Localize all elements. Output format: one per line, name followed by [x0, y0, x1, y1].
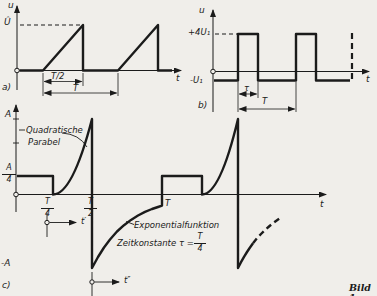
c-tick-period-label: T: [165, 199, 170, 208]
a-peak-label: Û: [4, 18, 11, 27]
c-aux1-origin-marker: [45, 220, 49, 224]
a-origin-marker: [15, 68, 20, 73]
c-origin-marker: [14, 192, 19, 197]
c-tick-quarter-num: T: [41, 198, 54, 208]
c-parabola-note-line1: Quadratische: [26, 126, 83, 135]
c-tick-half-fraction: T 2: [84, 198, 97, 218]
b-dim-pulse-label: τ: [244, 84, 249, 93]
c-parabola-note-leader: [62, 133, 87, 147]
panel-a: [15, 6, 181, 96]
figure-canvas: [0, 0, 377, 296]
c-parabola-note-line2: Parabel: [28, 138, 60, 147]
c-aux1-label: t′: [81, 217, 86, 226]
b-pulse-waveform: [214, 34, 350, 81]
c-aux2-origin-marker: [90, 280, 94, 284]
a-dim-period-label: T: [73, 84, 78, 93]
c-tick-half-num: T: [84, 198, 97, 208]
figure-bild-1: u Û T/2 T a) t u +4U₁ -U₁ τ T b) t A A 4…: [0, 0, 377, 296]
a-y-axis-label: u: [8, 1, 14, 10]
c-panel-label: c): [2, 281, 10, 290]
b-high-level-label: +4U₁: [188, 28, 210, 37]
a-x-axis-label: t: [176, 74, 180, 83]
c-x-axis-label: t: [320, 200, 324, 209]
c-tick-quarter-den: 4: [41, 208, 54, 219]
b-x-axis-label: t: [366, 75, 370, 84]
c-exp-note-line2: Zeitkonstante τ =: [117, 239, 194, 248]
c-aux2-label: t″: [124, 276, 131, 285]
figure-caption: Bild 1: [349, 283, 377, 296]
b-low-level-label: -U₁: [190, 76, 203, 85]
c-tick-quarter-fraction: T 4: [41, 198, 54, 218]
a-panel-label: a): [2, 83, 11, 92]
c-exp-note-line1: Exponentialfunktion: [134, 221, 219, 230]
c-amp-quarter-num: A: [2, 164, 16, 174]
c-exp-note-frac-num: T: [194, 233, 206, 243]
c-exp-note-frac-den: 4: [194, 243, 206, 254]
b-dim-period-label: T: [262, 97, 267, 106]
a-sawtooth-waveform: [20, 25, 173, 71]
c-amp-neg-label: -A: [1, 259, 10, 268]
c-exponential-dashed-continuation: [253, 217, 281, 243]
c-amp-quarter-den: 4: [2, 174, 16, 185]
b-origin-marker: [211, 69, 216, 74]
c-exp-note-fraction: T 4: [194, 233, 206, 253]
c-amp-label: A: [5, 110, 11, 119]
c-amp-quarter-fraction: A 4: [2, 164, 16, 184]
a-dim-half-period-label: T/2: [51, 72, 64, 81]
panel-b: [211, 10, 369, 112]
b-panel-label: b): [198, 101, 207, 110]
b-y-axis-label: u: [199, 6, 205, 15]
